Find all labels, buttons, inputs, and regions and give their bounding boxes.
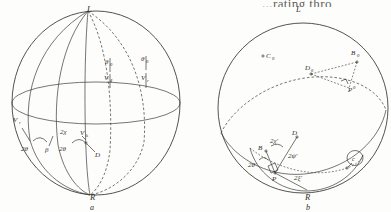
- label-b-B0: B 0: [351, 49, 360, 58]
- figure-container: ...rating thro: [0, 0, 391, 212]
- svg-text:0: 0: [110, 62, 113, 67]
- segment-b-D0-B0-dashed: [311, 62, 357, 74]
- arc-a-2theta-left: [33, 138, 47, 142]
- leader-a-beta: [49, 136, 53, 146]
- figure-drawing: L R V r 2θ β 2χ 2θ V k D θ 0 V 4: [0, 0, 391, 212]
- label-b-D0: D 0: [304, 64, 314, 73]
- label-b-L: L: [295, 4, 301, 14]
- label-b-B: B: [258, 144, 263, 152]
- label-a-Vk: V k: [80, 129, 89, 138]
- right-angle-mark-b-P0: [341, 79, 348, 84]
- svg-text:V: V: [104, 74, 109, 82]
- segment-b-P-R: [275, 173, 307, 190]
- great-circle-b-front: [221, 110, 386, 174]
- label-a-2chi: 2χ: [60, 128, 68, 136]
- label-a-L: L: [86, 4, 92, 14]
- svg-text:θ: θ: [141, 55, 145, 63]
- segment-b-D0-P0-dashed: [311, 74, 349, 88]
- svg-text:B: B: [351, 49, 356, 57]
- meridian-a-3: [85, 11, 90, 195]
- svg-text:D: D: [304, 64, 310, 72]
- svg-text:r: r: [147, 78, 149, 83]
- meridian-a-1: [28, 11, 90, 195]
- label-b-circled-c: c: [352, 156, 355, 162]
- svg-text:r: r: [19, 120, 21, 125]
- svg-text:k: k: [86, 133, 89, 138]
- label-b-2psi-prime: 2ψ': [288, 152, 298, 160]
- arc-b-2theta: [259, 158, 268, 161]
- label-b-P0: P 0: [347, 85, 356, 94]
- label-b-R: R: [304, 192, 311, 202]
- equator-a: [12, 82, 180, 124]
- meridian-a-5-dashed: [88, 11, 145, 195]
- panel-a-caption: a: [90, 203, 94, 212]
- point-b-C0: [262, 55, 264, 57]
- sphere-outline-b: [218, 23, 388, 193]
- svg-text:θ: θ: [105, 58, 109, 66]
- label-a-Vr: V r: [13, 116, 21, 125]
- svg-text:C: C: [266, 52, 271, 60]
- meridian-a-4-dashed: [88, 11, 111, 195]
- svg-text:V: V: [80, 129, 85, 137]
- leader-a-D: [87, 144, 95, 152]
- label-a-2theta-right: 2θ: [59, 145, 67, 153]
- label-a-theta0-right: θ 0: [141, 55, 149, 64]
- label-a-beta: β: [44, 146, 49, 154]
- svg-text:0: 0: [357, 53, 360, 58]
- svg-text:0: 0: [146, 59, 149, 64]
- panel-b-caption: b: [306, 203, 310, 212]
- label-b-D: D: [291, 129, 297, 137]
- label-a-theta0-left: θ 0: [105, 58, 113, 67]
- svg-text:0: 0: [272, 56, 275, 61]
- label-a-R: R: [89, 192, 96, 202]
- label-a-D: D: [94, 151, 100, 159]
- label-b-2theta-prime: 2θ': [248, 161, 257, 169]
- great-circle-b-back-dashed: [221, 77, 386, 133]
- svg-text:0: 0: [353, 85, 356, 90]
- label-a-Vr2: V r: [141, 74, 149, 83]
- panel-b-sphere: L R C 0 B 0 D 0 P 0 D B P 2χ' 2ψ' 2: [218, 4, 388, 212]
- arc-a-2theta-right: [72, 140, 86, 144]
- label-b-2chi-prime: 2χ': [270, 137, 279, 145]
- sphere-outline-a: [12, 11, 180, 195]
- label-b-P: P: [271, 175, 277, 183]
- svg-text:0: 0: [311, 68, 314, 73]
- panel-a-sphere: L R V r 2θ β 2χ 2θ V k D θ 0 V 4: [12, 4, 180, 212]
- svg-text:V: V: [13, 116, 18, 124]
- label-a-2theta-left: 2θ: [21, 145, 29, 153]
- label-b-C0: C 0: [266, 52, 275, 61]
- svg-text:V: V: [141, 74, 146, 82]
- circled-c-ring: [347, 151, 363, 166]
- label-b-2xi-prime: 2ξ': [294, 174, 302, 182]
